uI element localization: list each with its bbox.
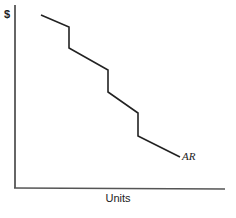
ar-curve-line xyxy=(41,15,180,157)
x-axis xyxy=(14,188,225,189)
x-axis-label: Units xyxy=(0,192,236,204)
ar-curve-label: AR xyxy=(182,150,195,162)
y-axis-label: $ xyxy=(4,8,10,20)
chart-canvas xyxy=(0,0,236,218)
